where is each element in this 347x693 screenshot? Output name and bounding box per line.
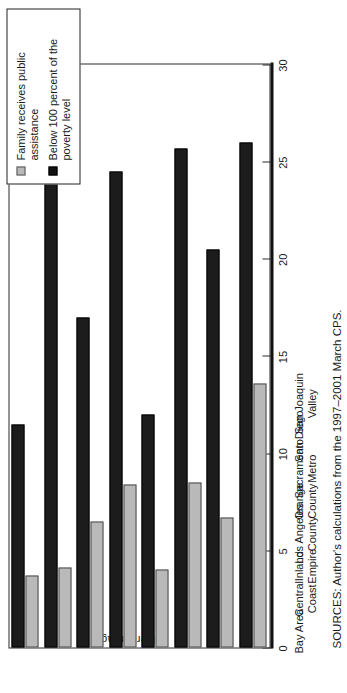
bar-group: [204, 64, 237, 647]
bar-below-poverty: [109, 171, 122, 647]
tick-label: 5: [276, 548, 288, 554]
bar-below-poverty: [239, 142, 252, 647]
bar-public-assistance: [25, 575, 38, 647]
bar-group: [107, 64, 140, 647]
category-label: San JoaquinValley: [292, 357, 317, 449]
value-axis-tick-labels: 051015202530: [276, 62, 294, 648]
bar-public-assistance: [58, 567, 71, 647]
bar-public-assistance: [220, 517, 233, 647]
bar-below-poverty: [174, 148, 187, 647]
legend-item-public-assistance: Family receives public assistance: [14, 18, 39, 175]
tick-label: 15: [276, 350, 288, 362]
bar-public-assistance: [90, 521, 103, 647]
chart-legend: Family receives public assistance Below …: [6, 8, 80, 184]
bar-below-poverty: [44, 132, 57, 647]
bar-public-assistance: [155, 569, 168, 647]
legend-swatch-light-icon: [16, 166, 25, 175]
tick-label: 25: [276, 156, 288, 168]
bar-public-assistance: [123, 484, 136, 647]
bar-below-poverty: [206, 249, 219, 647]
bar-group: [139, 64, 172, 647]
bar-below-poverty: [76, 317, 89, 647]
category-label-line: Valley: [305, 357, 318, 449]
bar-below-poverty: [141, 414, 154, 647]
legend-item-below-poverty: Below 100 percent of the poverty level: [46, 18, 71, 175]
category-label-line: San Joaquin: [292, 357, 305, 449]
source-note: SOURCES: Author's calculations from the …: [330, 309, 342, 648]
legend-swatch-dark-icon: [48, 166, 57, 175]
bar-group: [172, 64, 205, 647]
bar-chart-figure: 051015202530 Percentage Bay AreaCentralC…: [0, 0, 347, 693]
bar-public-assistance: [188, 482, 201, 647]
bar-group: [237, 64, 270, 647]
rotated-figure-stage: 051015202530 Percentage Bay AreaCentralC…: [0, 0, 347, 693]
tick-label: 30: [276, 59, 288, 71]
bar-below-poverty: [11, 424, 24, 647]
legend-label-public-assistance: Family receives public assistance: [14, 18, 39, 160]
bar-public-assistance: [253, 383, 266, 647]
tick-label: 10: [276, 448, 288, 460]
legend-label-below-poverty: Below 100 percent of the poverty level: [46, 18, 71, 160]
tick-label: 0: [276, 645, 288, 651]
tick-label: 20: [276, 253, 288, 265]
category-axis-labels: Bay AreaCentralCoastInlandEmpireLos Ange…: [292, 62, 332, 648]
